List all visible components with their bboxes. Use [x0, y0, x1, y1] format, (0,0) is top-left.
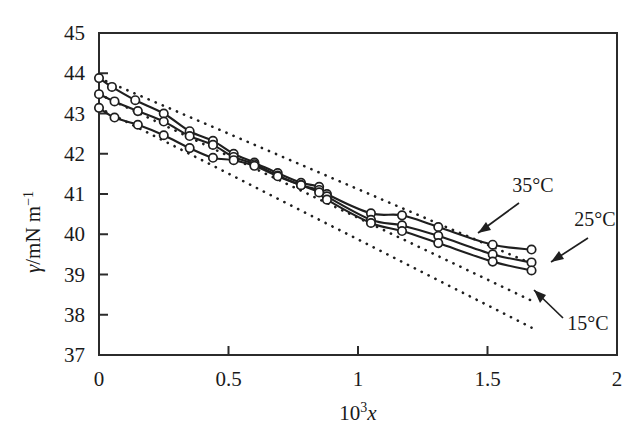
y-axis-title-exponent: −1 — [21, 191, 36, 206]
annotation-15c: 15°C — [534, 290, 609, 334]
y-axis-tick-labels: 373839404142434445 — [64, 21, 86, 367]
ideal-dotted-35C — [99, 108, 532, 328]
marker-15C-2 — [131, 96, 139, 104]
marker-35C-14 — [434, 239, 442, 247]
data-curves — [99, 78, 532, 270]
x-axis-title-base: 10 — [339, 401, 360, 425]
y-tick-label-41: 41 — [64, 182, 85, 206]
chart-canvas: 373839404142434445 00.511.52 γ/mN m−1 10… — [0, 0, 640, 441]
y-tick-label-37: 37 — [64, 343, 85, 367]
y-axis-title: γ/mN m−1 — [21, 191, 45, 273]
marker-35C-9 — [297, 181, 305, 189]
marker-35C-15 — [488, 257, 496, 265]
marker-35C-3 — [160, 131, 168, 139]
svg-text:γ/mN m−1: γ/mN m−1 — [21, 191, 45, 273]
y-tick-label-39: 39 — [64, 263, 85, 287]
marker-25C-2 — [134, 107, 142, 115]
marker-15C-13 — [398, 211, 406, 219]
annotation-25c: 25°C — [551, 208, 616, 262]
marker-15C-0 — [95, 74, 103, 82]
marker-25C-5 — [209, 141, 217, 149]
marker-25C-1 — [110, 97, 118, 105]
marker-35C-0 — [95, 104, 103, 112]
marker-35C-11 — [323, 195, 331, 203]
svg-text:103x: 103x — [339, 400, 377, 425]
annotation-15c-label: 15°C — [567, 312, 608, 334]
annotation-35c-label: 35°C — [512, 174, 553, 196]
y-tick-label-42: 42 — [64, 142, 85, 166]
annotation-35c: 35°C — [478, 174, 554, 233]
y-tick-label-40: 40 — [64, 222, 85, 246]
y-tick-label-43: 43 — [64, 102, 85, 126]
x-axis-title-variable: x — [366, 401, 377, 425]
y-tick-label-44: 44 — [64, 61, 86, 85]
annotation-15c-arrowhead — [534, 290, 546, 303]
marker-35C-4 — [185, 144, 193, 152]
marker-35C-2 — [134, 121, 142, 129]
x-tick-label-1.5: 1.5 — [474, 367, 500, 391]
marker-25C-4 — [185, 132, 193, 140]
marker-35C-5 — [209, 154, 217, 162]
x-axis-tick-labels: 00.511.52 — [94, 367, 623, 391]
marker-35C-6 — [229, 156, 237, 164]
surface-tension-figure: 373839404142434445 00.511.52 γ/mN m−1 10… — [0, 0, 640, 441]
x-tick-label-0.5: 0.5 — [215, 367, 241, 391]
annotation-25c-label: 25°C — [574, 208, 615, 230]
x-tick-label-0: 0 — [94, 367, 105, 391]
annotation-35c-arrowhead — [478, 222, 491, 233]
marker-35C-8 — [274, 172, 282, 180]
marker-15C-1 — [108, 83, 116, 91]
marker-35C-7 — [250, 162, 258, 170]
data-point-markers — [95, 74, 536, 275]
marker-25C-3 — [160, 117, 168, 125]
marker-35C-16 — [527, 266, 535, 274]
marker-35C-13 — [398, 227, 406, 235]
marker-35C-12 — [367, 219, 375, 227]
x-tick-label-2: 2 — [612, 367, 623, 391]
annotation-25c-arrowhead — [551, 251, 564, 262]
y-axis-title-rest: /mN m — [21, 206, 45, 265]
marker-15C-15 — [488, 241, 496, 249]
marker-15C-14 — [434, 223, 442, 231]
curve-15C — [99, 78, 532, 249]
x-axis-ticks — [229, 346, 488, 355]
marker-15C-3 — [160, 109, 168, 117]
x-axis-title: 103x — [339, 400, 377, 425]
marker-25C-0 — [95, 90, 103, 98]
y-tick-label-45: 45 — [64, 21, 85, 45]
x-axis-title-exponent: 3 — [360, 400, 367, 415]
marker-35C-1 — [110, 113, 118, 121]
marker-35C-10 — [315, 188, 323, 196]
x-tick-label-1: 1 — [353, 367, 364, 391]
marker-25C-16 — [527, 258, 535, 266]
y-tick-label-38: 38 — [64, 303, 85, 327]
marker-15C-16 — [527, 245, 535, 253]
